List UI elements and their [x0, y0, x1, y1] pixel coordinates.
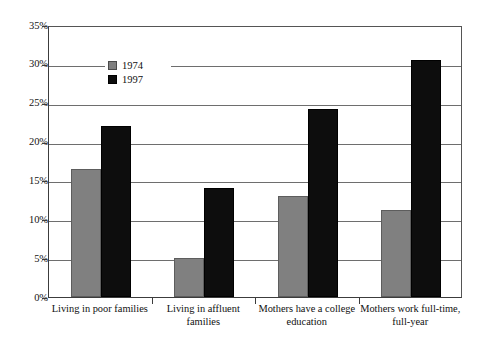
black-square-icon [108, 75, 117, 84]
y-axis-tick-mark [42, 26, 47, 27]
x-axis-category-label: Living in poor families [44, 303, 156, 316]
x-axis-category-labels: Living in poor familiesLiving in affluen… [48, 303, 462, 342]
y-axis-tick-mark [42, 143, 47, 144]
y-axis-tick-mark [42, 104, 47, 105]
x-axis-category-label: Mothers work full-time,full-year [355, 303, 467, 328]
bar-1974-2 [278, 196, 308, 297]
bar-1974-0 [71, 169, 101, 297]
plot-area: 1974 1997 [48, 26, 462, 298]
bar-chart: 35%30%25%20%15%10%5%0% 1974 1997 Living … [0, 0, 479, 342]
gray-square-icon [108, 61, 117, 70]
x-axis-category-label: Mothers have a collegeeducation [251, 303, 363, 328]
legend-label-1974: 1974 [122, 60, 143, 71]
y-axis-tick-mark [42, 65, 47, 66]
bar-1997-1 [204, 188, 234, 297]
bar-1997-3 [411, 60, 441, 297]
bar-1997-0 [101, 126, 131, 297]
legend-label-1997: 1997 [122, 74, 143, 85]
y-axis-tick-mark [42, 181, 47, 182]
chart-legend: 1974 1997 [105, 56, 171, 89]
bar-1974-1 [174, 258, 204, 297]
bar-1997-2 [308, 109, 338, 297]
x-axis-category-label: Living in affluentfamilies [148, 303, 260, 328]
gridline [49, 105, 461, 106]
legend-item-1997: 1997 [108, 72, 168, 86]
legend-item-1974: 1974 [108, 58, 168, 72]
bar-1974-3 [381, 210, 411, 297]
y-axis-tick-mark [42, 220, 47, 221]
y-axis-tick-mark [42, 298, 47, 299]
y-axis: 35%30%25%20%15%10%5%0% [0, 0, 48, 342]
y-axis-tick-mark [42, 259, 47, 260]
